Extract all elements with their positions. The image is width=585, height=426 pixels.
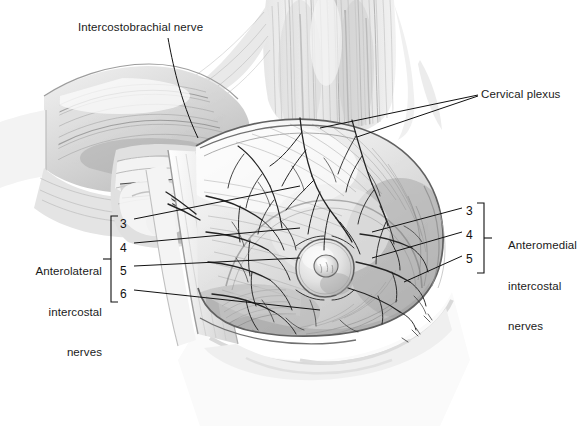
label-left-nerve-3: 3 bbox=[120, 217, 127, 231]
label-intercostobrachial-nerve: Intercostobrachial nerve bbox=[78, 21, 203, 35]
label-left-nerve-5: 5 bbox=[120, 264, 127, 278]
label-anterolateral-line-1: Anterolateral bbox=[18, 265, 102, 279]
label-anterolateral-line-2: intercostal bbox=[18, 306, 102, 320]
label-anterolateral-line-3: nerves bbox=[18, 346, 102, 360]
label-right-nerve-4: 4 bbox=[466, 228, 473, 242]
label-cervical-plexus: Cervical plexus bbox=[481, 88, 560, 102]
nipple-areola bbox=[296, 239, 354, 297]
label-anteromedial-intercostal-nerves: Anteromedial intercostal nerves bbox=[508, 212, 577, 347]
label-left-nerve-6: 6 bbox=[120, 287, 127, 301]
label-right-nerve-5: 5 bbox=[466, 252, 473, 266]
bracket-anteromedial bbox=[477, 203, 492, 273]
label-anteromedial-line-1: Anteromedial bbox=[508, 239, 577, 253]
label-left-nerve-4: 4 bbox=[120, 241, 127, 255]
label-anterolateral-intercostal-nerves: Anterolateral intercostal nerves bbox=[18, 238, 102, 373]
label-anteromedial-line-3: nerves bbox=[508, 320, 577, 334]
label-anteromedial-line-2: intercostal bbox=[508, 280, 577, 294]
label-right-nerve-3: 3 bbox=[466, 204, 473, 218]
